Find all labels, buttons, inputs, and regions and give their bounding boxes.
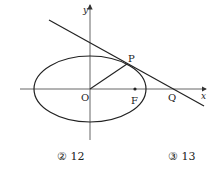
choice-2: ② 12 (57, 150, 85, 163)
origin-label: O (81, 92, 89, 103)
tangent-line (49, 20, 204, 106)
point-f-label: F (131, 95, 138, 106)
ellipse-diagram: y x O P F Q (0, 0, 212, 172)
focus-point (133, 87, 136, 90)
x-axis-label: x (201, 91, 206, 101)
choice-3: ③ 13 (168, 150, 196, 163)
segment-op (90, 64, 127, 89)
point-q-label: Q (168, 92, 176, 103)
point-p-label: P (128, 53, 135, 64)
y-axis-label: y (82, 5, 89, 15)
